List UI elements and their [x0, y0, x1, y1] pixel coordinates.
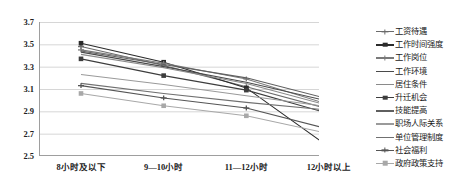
legend-label: 社会福利 — [395, 145, 427, 156]
y-tick-label: 3.5 — [23, 39, 34, 49]
y-axis: 3.73.53.33.12.92.72.5 — [0, 0, 39, 189]
plot-area — [39, 22, 319, 156]
legend-swatch-icon — [376, 79, 394, 90]
legend-label: 单位管理制度 — [395, 132, 443, 143]
x-tick-label: 11—12小时 — [225, 160, 268, 172]
legend-swatch-icon — [376, 52, 394, 63]
data-point-marker — [244, 114, 249, 119]
y-tick-label: 2.9 — [23, 106, 34, 116]
series-line — [81, 86, 319, 130]
y-tick-label: 3.1 — [23, 84, 34, 94]
legend-label: 政府政策支持 — [395, 158, 443, 169]
plot-svg — [39, 22, 319, 156]
legend-item[interactable]: 升迁机会 — [376, 91, 464, 104]
line-chart: 3.73.53.33.12.92.72.5 8小时及以下9—10小时11—12小… — [0, 0, 464, 189]
legend-swatch-icon — [376, 118, 394, 129]
legend-swatch-icon — [376, 132, 394, 143]
legend: 工资待遇工作时间强度工作岗位工作环境居住条件升迁机会技能提高职场人际关系单位管理… — [376, 25, 464, 170]
legend-swatch-icon — [376, 39, 394, 50]
y-tick-label: 3.7 — [23, 17, 34, 27]
x-tick-label: 9—10小时 — [144, 160, 183, 172]
legend-label: 技能提高 — [395, 105, 427, 116]
x-tick-label: 12小时以上 — [307, 160, 352, 172]
legend-item[interactable]: 技能提高 — [376, 104, 464, 117]
legend-item[interactable]: 政府政策支持 — [376, 157, 464, 170]
legend-item[interactable]: 单位管理制度 — [376, 131, 464, 144]
legend-label: 工资待遇 — [395, 26, 427, 37]
legend-swatch-icon — [376, 26, 394, 37]
legend-swatch-icon — [376, 158, 394, 169]
data-point-marker — [79, 91, 84, 96]
data-point-marker — [161, 73, 166, 78]
legend-swatch-icon — [376, 105, 394, 116]
legend-label: 工作时间强度 — [395, 39, 443, 50]
legend-label: 居住条件 — [395, 79, 427, 90]
data-point-marker — [244, 88, 249, 93]
data-point-marker — [79, 57, 84, 62]
x-tick-label: 8小时及以下 — [56, 160, 105, 172]
legend-swatch-icon — [376, 92, 394, 103]
legend-item[interactable]: 社会福利 — [376, 144, 464, 157]
legend-swatch-icon — [376, 66, 394, 77]
x-axis: 8小时及以下9—10小时11—12小时12小时以上 — [39, 160, 319, 180]
y-tick-label: 3.3 — [23, 62, 34, 72]
legend-label: 升迁机会 — [395, 92, 427, 103]
series-line — [81, 54, 319, 105]
legend-item[interactable]: 工资待遇 — [376, 25, 464, 38]
legend-label: 工作环境 — [395, 66, 427, 77]
legend-label: 职场人际关系 — [395, 118, 443, 129]
data-point-marker — [161, 103, 166, 108]
legend-item[interactable]: 职场人际关系 — [376, 117, 464, 130]
legend-item[interactable]: 工作时间强度 — [376, 38, 464, 51]
legend-label: 工作岗位 — [395, 52, 427, 63]
legend-swatch-icon — [376, 145, 394, 156]
data-point-marker — [79, 41, 84, 46]
legend-item[interactable]: 工作环境 — [376, 65, 464, 78]
legend-item[interactable]: 工作岗位 — [376, 51, 464, 64]
y-tick-label: 2.5 — [23, 151, 34, 161]
y-tick-label: 2.7 — [23, 129, 34, 139]
legend-item[interactable]: 居住条件 — [376, 78, 464, 91]
series-line — [81, 93, 319, 133]
